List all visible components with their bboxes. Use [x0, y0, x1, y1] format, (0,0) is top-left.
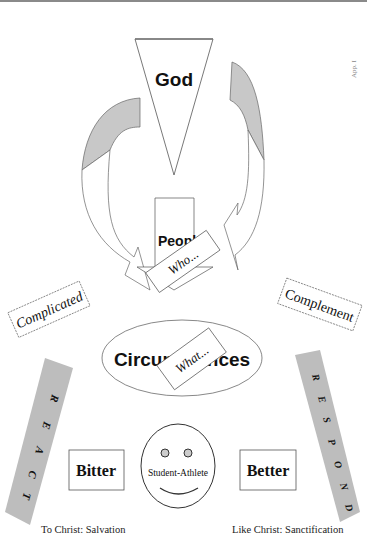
right-eye-icon	[184, 449, 192, 457]
student-athlete-label: Student-Athlete	[148, 468, 208, 478]
right-caption: Like Christ: Sanctification	[232, 524, 344, 535]
bitter-label: Bitter	[76, 462, 116, 479]
complicated-box: Complicated	[8, 281, 90, 337]
god-label: God	[155, 69, 193, 90]
better-box: Better	[240, 450, 296, 490]
student-athlete-face: Student-Athlete	[141, 424, 215, 508]
diagram-canvas: God App. I People Who... Complicated Com…	[0, 0, 367, 553]
left-caption: To Christ: Salvation	[41, 524, 126, 535]
bitter-box: Bitter	[69, 450, 124, 490]
left-eye-icon	[161, 449, 169, 457]
page-mark: App. I	[350, 59, 358, 78]
left-curved-arrow	[82, 98, 150, 290]
better-label: Better	[247, 462, 290, 479]
complement-box: Complement	[278, 278, 362, 331]
react-bar: R E A C T	[5, 358, 73, 525]
god-triangle: God	[135, 39, 213, 175]
respond-bar: R E S P O N D	[295, 350, 360, 522]
right-curved-arrow	[224, 62, 264, 270]
